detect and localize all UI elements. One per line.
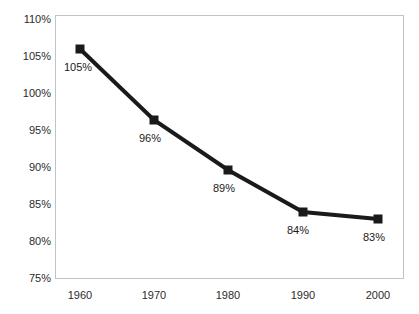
x-axis-tick-label: 1970 (124, 290, 184, 301)
x-axis-tick-label: 1990 (273, 290, 333, 301)
line-chart: 110%105%100%95%90%85%80%75% 196019701980… (0, 0, 419, 314)
data-point-label: 105% (64, 62, 92, 73)
data-point-label: 83% (363, 232, 385, 243)
x-axis-tick-label: 1980 (198, 290, 258, 301)
data-point-label: 96% (139, 133, 161, 144)
data-point-label: 84% (287, 225, 309, 236)
x-axis: 19601970198019902000 (0, 0, 419, 314)
x-axis-tick-label: 1960 (50, 290, 110, 301)
data-point-label: 89% (213, 183, 235, 194)
x-axis-tick-label: 2000 (348, 290, 408, 301)
